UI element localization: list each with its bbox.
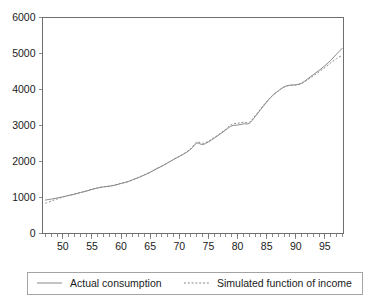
y-tick-label-5000: 5000 xyxy=(12,47,36,59)
x-tick-label-70: 70 xyxy=(173,240,185,252)
legend-label-actual-consumption: Actual consumption xyxy=(70,277,162,289)
x-tick-label-75: 75 xyxy=(203,240,215,252)
x-tick-label-60: 60 xyxy=(115,240,127,252)
legend: Actual consumption Simulated function of… xyxy=(27,272,362,294)
x-tick-label-65: 65 xyxy=(144,240,156,252)
y-tick-label-3000: 3000 xyxy=(12,119,36,131)
x-tick-label-95: 95 xyxy=(319,240,331,252)
y-tick-label-6000: 6000 xyxy=(12,11,36,23)
x-tick-label-55: 55 xyxy=(86,240,98,252)
x-tick-label-85: 85 xyxy=(261,240,273,252)
legend-label-simulated-function-of-income: Simulated function of income xyxy=(217,277,352,289)
y-tick-label-2000: 2000 xyxy=(12,155,36,167)
x-tick-label-90: 90 xyxy=(290,240,302,252)
chart-background xyxy=(0,0,370,301)
y-tick-label-0: 0 xyxy=(30,227,36,239)
x-tick-label-80: 80 xyxy=(232,240,244,252)
x-tick-label-50: 50 xyxy=(57,240,69,252)
consumption-chart: 0100020003000400050006000 50556065707580… xyxy=(0,0,370,301)
y-tick-label-4000: 4000 xyxy=(12,83,36,95)
y-tick-label-1000: 1000 xyxy=(12,191,36,203)
